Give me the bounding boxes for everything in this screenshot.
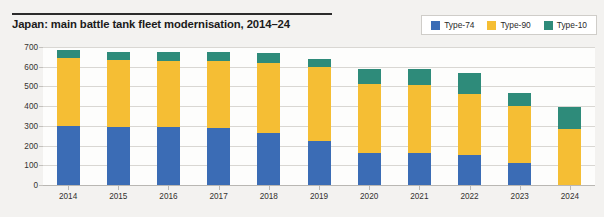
y-axis-tick-label: 300	[24, 121, 38, 130]
x-axis-tick-label: 2014	[59, 192, 77, 201]
x-axis-tick-mark	[68, 186, 69, 190]
bar-segment[interactable]	[308, 67, 331, 141]
bar-segment[interactable]	[257, 53, 280, 63]
x-axis-tick-mark	[570, 186, 571, 190]
x-axis-tick-mark	[269, 186, 270, 190]
bar-segment[interactable]	[358, 153, 381, 185]
chart-figure: Japan: main battle tank fleet modernisat…	[0, 0, 604, 217]
bar-segment[interactable]	[257, 133, 280, 185]
y-axis-tick-mark	[39, 185, 43, 186]
y-axis-tick-label: 600	[24, 62, 38, 71]
bar-segment[interactable]	[257, 63, 280, 133]
bar-segment[interactable]	[458, 73, 481, 95]
bar-segment[interactable]	[107, 52, 130, 60]
bar-segment[interactable]	[308, 141, 331, 185]
bar-group[interactable]	[157, 47, 180, 185]
legend-item[interactable]: Type-10	[544, 21, 587, 30]
legend-label: Type-74	[444, 21, 474, 29]
legend-label: Type-90	[500, 21, 530, 29]
bar-segment[interactable]	[57, 126, 80, 185]
x-axis-tick-mark	[520, 186, 521, 190]
bar-segment[interactable]	[408, 85, 431, 153]
y-axis-tick-mark	[39, 47, 43, 48]
y-axis-tick-label: 500	[24, 82, 38, 91]
y-axis-tick-mark	[39, 106, 43, 107]
bar-segment[interactable]	[207, 52, 230, 61]
page-title: Japan: main battle tank fleet modernisat…	[12, 18, 290, 30]
bar-group[interactable]	[107, 47, 130, 185]
bar-group[interactable]	[358, 47, 381, 185]
x-axis-tick-mark	[419, 186, 420, 190]
x-axis-tick-label: 2023	[511, 192, 529, 201]
bar-segment[interactable]	[358, 69, 381, 85]
bar-group[interactable]	[558, 47, 581, 185]
x-axis-tick-label: 2018	[260, 192, 278, 201]
legend-item[interactable]: Type-74	[431, 21, 474, 30]
bar-segment[interactable]	[558, 107, 581, 129]
bar-segment[interactable]	[157, 127, 180, 185]
bar-segment[interactable]	[458, 94, 481, 155]
bar-group[interactable]	[458, 47, 481, 185]
bar-segment[interactable]	[107, 127, 130, 185]
y-axis-tick-label: 200	[24, 141, 38, 150]
x-axis-tick-label: 2024	[561, 192, 579, 201]
bar-segment[interactable]	[508, 163, 531, 185]
y-axis-tick-mark	[39, 67, 43, 68]
y-axis-tick-label: 700	[24, 43, 38, 52]
bar-segment[interactable]	[558, 129, 581, 185]
y-axis: 0100200300400500600700	[0, 47, 38, 185]
x-axis-tick-label: 2017	[210, 192, 228, 201]
bar-group[interactable]	[308, 47, 331, 185]
bar-group[interactable]	[508, 47, 531, 185]
bar-segment[interactable]	[358, 84, 381, 153]
y-axis-tick-mark	[39, 146, 43, 147]
y-axis-tick-label: 100	[24, 161, 38, 170]
title-rule	[12, 13, 332, 15]
bar-segment[interactable]	[57, 58, 80, 126]
bar-group[interactable]	[257, 47, 280, 185]
bar-segment[interactable]	[207, 61, 230, 128]
bar-segment[interactable]	[308, 59, 331, 67]
legend-swatch-icon	[431, 21, 440, 30]
x-axis-tick-label: 2020	[360, 192, 378, 201]
x-axis-tick-label: 2015	[109, 192, 127, 201]
legend-label: Type-10	[557, 21, 587, 29]
x-axis-tick-mark	[319, 186, 320, 190]
y-axis-tick-mark	[39, 126, 43, 127]
x-axis-tick-label: 2021	[410, 192, 428, 201]
bar-segment[interactable]	[508, 106, 531, 163]
y-axis-tick-label: 400	[24, 102, 38, 111]
x-axis-tick-label: 2016	[159, 192, 177, 201]
bar-segment[interactable]	[458, 155, 481, 185]
bar-group[interactable]	[408, 47, 431, 185]
legend-swatch-icon	[487, 21, 496, 30]
bar-segment[interactable]	[107, 60, 130, 127]
bar-segment[interactable]	[157, 61, 180, 127]
bar-segment[interactable]	[207, 128, 230, 185]
plot-area	[43, 47, 595, 185]
y-axis-tick-label: 0	[33, 181, 38, 190]
x-axis-tick-mark	[168, 186, 169, 190]
chart-legend: Type-74Type-90Type-10	[421, 15, 597, 35]
x-axis-tick-label: 2019	[310, 192, 328, 201]
x-axis-tick-mark	[118, 186, 119, 190]
x-axis-tick-mark	[219, 186, 220, 190]
x-axis-tick-mark	[470, 186, 471, 190]
bar-segment[interactable]	[408, 69, 431, 86]
bar-segment[interactable]	[508, 93, 531, 106]
x-axis-tick-label: 2022	[460, 192, 478, 201]
x-axis-tick-mark	[369, 186, 370, 190]
y-axis-tick-mark	[39, 165, 43, 166]
bar-segment[interactable]	[408, 153, 431, 185]
bar-group[interactable]	[57, 47, 80, 185]
legend-swatch-icon	[544, 21, 553, 30]
legend-item[interactable]: Type-90	[487, 21, 530, 30]
bar-segment[interactable]	[157, 52, 180, 61]
y-axis-tick-mark	[39, 86, 43, 87]
bar-segment[interactable]	[57, 50, 80, 58]
bar-group[interactable]	[207, 47, 230, 185]
